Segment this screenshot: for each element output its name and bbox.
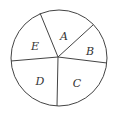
divider-line	[58, 57, 107, 63]
divider-line	[57, 57, 58, 106]
sector-label-b: B	[85, 45, 94, 58]
sector-label-c: C	[73, 77, 82, 90]
sector-label-e: E	[30, 40, 39, 53]
circle-outline	[11, 10, 107, 106]
divider-line	[11, 57, 58, 61]
pie-diagram: ABCDE	[0, 0, 115, 117]
sector-label-d: D	[35, 75, 45, 88]
sector-label-a: A	[59, 30, 68, 43]
divider-line	[40, 13, 58, 57]
